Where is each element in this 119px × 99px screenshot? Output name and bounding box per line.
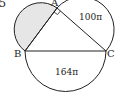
label-bc-area: 164π: [55, 67, 78, 77]
label-c: C: [107, 48, 115, 59]
triangle-semicircles-diagram: 5 A B C 100π 164π: [0, 0, 119, 99]
label-a: A: [50, 0, 59, 8]
label-ac-area: 100π: [79, 12, 102, 22]
semicircle-ac: [57, 0, 114, 51]
label-b: B: [14, 48, 21, 59]
semicircle-ab: [14, 3, 57, 51]
question-number: 5: [0, 0, 6, 10]
